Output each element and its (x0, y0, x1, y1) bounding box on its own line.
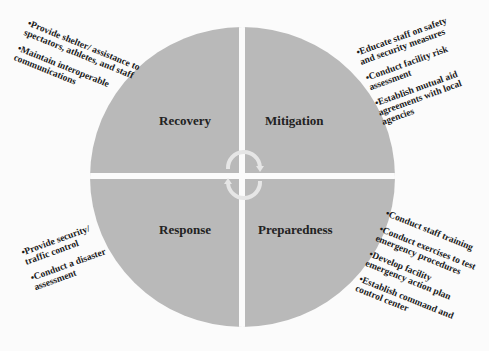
quadrant-label-preparedness: Preparedness (258, 222, 333, 238)
emergency-management-cycle-diagram: Recovery Mitigation Response Preparednes… (0, 0, 489, 351)
response-notes: Provide security/ traffic control Conduc… (20, 216, 128, 299)
quadrant-label-recovery: Recovery (159, 113, 211, 129)
cycle-arrows-icon (224, 149, 264, 201)
recovery-notes: Provide shelter/ assistance to spectator… (10, 18, 146, 115)
quadrant-label-mitigation: Mitigation (265, 113, 324, 129)
quadrant-label-response: Response (159, 222, 211, 238)
